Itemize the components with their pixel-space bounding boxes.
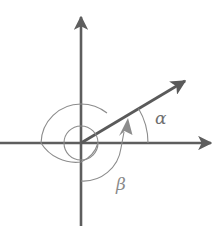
- alpha-label: α: [155, 110, 166, 127]
- angle-diagram: [0, 0, 215, 236]
- beta-label: β: [116, 176, 126, 193]
- vector-arrow: [81, 81, 185, 143]
- alpha-arc: [139, 109, 149, 144]
